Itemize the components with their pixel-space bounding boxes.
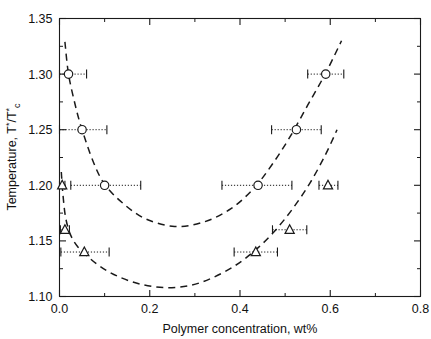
x-tick-label: 0.8 bbox=[412, 302, 429, 316]
data-point-circle bbox=[292, 126, 300, 134]
data-point-circle bbox=[254, 181, 262, 189]
y-tick-label: 1.35 bbox=[28, 12, 52, 26]
y-tick-label: 1.30 bbox=[28, 68, 52, 82]
x-tick-label: 0.0 bbox=[51, 302, 68, 316]
chart-figure: 0.00.20.40.60.8 1.101.151.201.251.301.35… bbox=[0, 0, 431, 339]
data-point-circle bbox=[100, 181, 108, 189]
y-axis-title-subscript: c bbox=[12, 103, 22, 108]
data-point-circle bbox=[64, 70, 72, 78]
y-axis-title-prefix: Temperature, T bbox=[5, 126, 19, 211]
y-tick-label: 1.15 bbox=[28, 234, 52, 248]
chart-background bbox=[0, 0, 431, 339]
scatter-plot: 0.00.20.40.60.8 1.101.151.201.251.301.35… bbox=[0, 0, 431, 339]
y-tick-label: 1.20 bbox=[28, 179, 52, 193]
y-axis-title-slash: /T bbox=[5, 111, 19, 122]
y-tick-label: 1.25 bbox=[28, 123, 52, 137]
x-axis-title: Polymer concentration, wt% bbox=[163, 322, 318, 336]
data-point-circle bbox=[322, 70, 330, 78]
x-tick-label: 0.2 bbox=[141, 302, 158, 316]
x-tick-label: 0.4 bbox=[231, 302, 248, 316]
y-tick-label: 1.10 bbox=[28, 290, 52, 304]
x-tick-label: 0.6 bbox=[322, 302, 339, 316]
data-point-circle bbox=[78, 126, 86, 134]
